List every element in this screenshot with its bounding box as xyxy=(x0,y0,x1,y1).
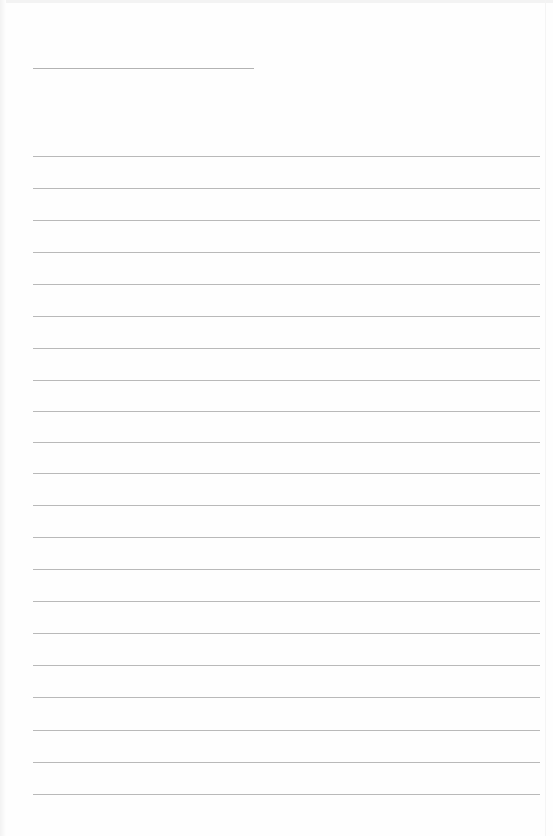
ruled-line xyxy=(33,442,540,443)
ruled-line xyxy=(33,473,540,474)
lined-paper-page xyxy=(0,0,553,836)
ruled-line xyxy=(33,411,540,412)
ruled-line xyxy=(33,537,540,538)
ruled-line xyxy=(33,316,540,317)
ruled-line xyxy=(33,380,540,381)
ruled-line xyxy=(33,762,540,763)
page-top-edge xyxy=(0,0,553,3)
ruled-line xyxy=(33,188,540,189)
ruled-line xyxy=(33,730,540,731)
page-right-edge xyxy=(545,0,546,836)
ruled-line xyxy=(33,284,540,285)
ruled-line xyxy=(33,794,540,795)
ruled-line xyxy=(33,601,540,602)
ruled-line xyxy=(33,505,540,506)
ruled-line xyxy=(33,633,540,634)
ruled-line xyxy=(33,348,540,349)
ruled-line xyxy=(33,569,540,570)
ruled-line xyxy=(33,252,540,253)
ruled-line xyxy=(33,156,540,157)
header-line xyxy=(33,68,254,69)
ruled-line xyxy=(33,220,540,221)
ruled-line xyxy=(33,665,540,666)
page-left-edge xyxy=(0,0,6,836)
ruled-line xyxy=(33,697,540,698)
